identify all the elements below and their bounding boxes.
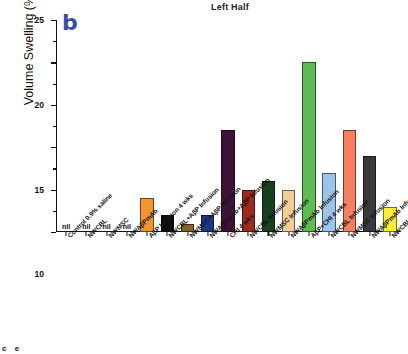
y-tick-label-25: 25: [35, 15, 44, 25]
y-tick-label-20: 20: [35, 100, 44, 110]
bar-slot[interactable]: [137, 20, 157, 232]
bar-slot[interactable]: [157, 20, 177, 232]
bar-slot[interactable]: nil: [56, 20, 76, 232]
chart-title: Left Half: [150, 2, 310, 12]
x-axis-labels: Control 0.9% salineNWCBLNWMSCNWAβPmAbAβP…: [56, 234, 400, 344]
chart-root: Left Half b Volume Swelling (%) 05101520…: [0, 0, 408, 354]
bar-slot[interactable]: [258, 20, 278, 232]
bar-slot[interactable]: nil: [76, 20, 96, 232]
y-tick-label-10: 10: [35, 269, 44, 279]
y-tick-label-15: 15: [35, 185, 44, 195]
bottom-caption: c e: [2, 344, 22, 354]
y-tick-0: 0: [51, 232, 56, 233]
bar-slot[interactable]: nil: [117, 20, 137, 232]
